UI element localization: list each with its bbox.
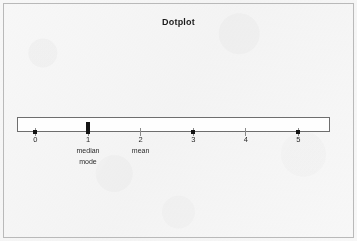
data-dot	[191, 130, 195, 134]
dot-stack	[86, 122, 90, 134]
number-line-axis: 01medianmode2mean345	[17, 117, 330, 132]
chart-title: Dotplot	[0, 17, 357, 27]
axis-annotation-secondary: mode	[66, 158, 110, 165]
scanned-page: Dotplot 01medianmode2mean345	[0, 0, 357, 241]
axis-tick-label: 5	[286, 135, 310, 144]
axis-tick-label: 3	[181, 135, 205, 144]
axis-annotation-primary: median	[66, 147, 110, 154]
axis-tick-label: 4	[234, 135, 258, 144]
axis-annotation-primary: mean	[119, 147, 163, 154]
axis-tick-label: 1	[76, 135, 100, 144]
dot-stack	[296, 130, 300, 134]
data-dot	[33, 130, 37, 134]
dot-stack	[33, 130, 37, 134]
dot-stack	[191, 130, 195, 134]
data-dot	[86, 130, 90, 134]
data-dot	[296, 130, 300, 134]
axis-tick-label: 0	[23, 135, 47, 144]
axis-tick-label: 2	[129, 135, 153, 144]
